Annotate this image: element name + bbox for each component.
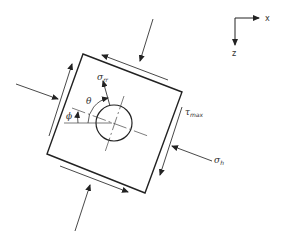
phi-label: ϕ bbox=[66, 111, 72, 121]
z-axis-label: z bbox=[232, 49, 236, 58]
shear-arrow-bottom bbox=[60, 166, 128, 192]
shear-arrow-top bbox=[102, 55, 168, 80]
shear-arrow-left bbox=[49, 64, 72, 136]
center-line-a bbox=[72, 108, 148, 136]
center-line-b bbox=[105, 96, 124, 152]
x-axis-label: x bbox=[265, 14, 270, 23]
shear-arrow-right bbox=[160, 107, 182, 175]
sigma-rr-arrow bbox=[103, 81, 110, 106]
normal-arrow-left bbox=[16, 84, 58, 99]
normal-arrow-bottom bbox=[75, 185, 90, 231]
normal-arrow-right bbox=[172, 146, 212, 161]
stress-diagram: x z σrr θ ϕ τmax σh bbox=[0, 0, 286, 241]
tau-max-label: τmax bbox=[185, 107, 204, 118]
theta-label: θ bbox=[86, 96, 92, 106]
axes-icon bbox=[235, 18, 259, 45]
sigma-rr-label: σrr bbox=[97, 72, 109, 83]
sigma-h-label: σh bbox=[214, 155, 224, 166]
normal-arrow-top bbox=[140, 19, 153, 61]
